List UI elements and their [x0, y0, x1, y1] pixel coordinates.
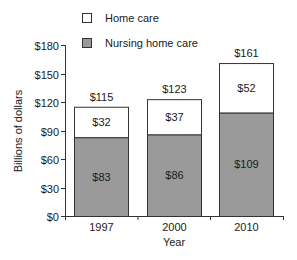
- segment-value-label: $52: [237, 82, 255, 94]
- stacked-bar-chart: Home careNursing home care $0$30$60$90$1…: [0, 0, 297, 260]
- total-value-label: $161: [234, 47, 258, 59]
- y-tick-label: $30: [41, 183, 59, 195]
- y-axis-label: Billions of dollars: [12, 89, 24, 172]
- y-tick-label: $90: [41, 126, 59, 138]
- x-axis-label: Year: [163, 236, 186, 248]
- y-axis: $0$30$60$90$120$150$180: [35, 40, 66, 223]
- segment-value-label: $37: [165, 111, 183, 123]
- y-tick-label: $180: [35, 40, 59, 52]
- segment-value-label: $83: [92, 171, 110, 183]
- y-tick-label: $120: [35, 97, 59, 109]
- legend-swatch: [83, 39, 92, 48]
- legend-swatch: [83, 14, 92, 23]
- y-tick-label: $0: [47, 211, 59, 223]
- total-value-label: $123: [162, 83, 186, 95]
- x-tick-label: 2010: [234, 221, 258, 233]
- bars: $83$32$115$86$37$123$109$52$161: [75, 47, 274, 216]
- legend: Home careNursing home care: [83, 12, 198, 49]
- legend-label: Home care: [105, 12, 159, 24]
- x-tick-label: 1997: [89, 221, 113, 233]
- segment-value-label: $86: [165, 169, 183, 181]
- segment-value-label: $109: [234, 158, 258, 170]
- total-value-label: $115: [90, 91, 114, 103]
- y-tick-label: $150: [35, 69, 59, 81]
- y-tick-label: $60: [41, 154, 59, 166]
- x-axis: 199720002010: [65, 216, 284, 233]
- segment-value-label: $32: [92, 116, 110, 128]
- legend-label: Nursing home care: [105, 37, 198, 49]
- x-tick-label: 2000: [162, 221, 186, 233]
